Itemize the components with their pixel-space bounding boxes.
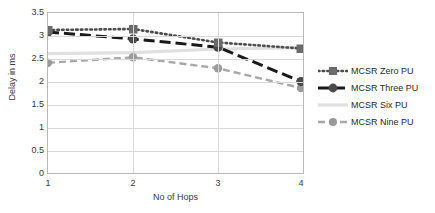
legend-item-mcsr-six-pu[interactable]: MCSR Six PU	[318, 96, 433, 113]
gridline-2.5	[48, 59, 303, 60]
plot-area	[47, 12, 304, 174]
legend-label-mcsr-zero-pu: MCSR Zero PU	[351, 66, 414, 76]
x-tick-4: 4	[286, 178, 316, 188]
vgridline-2	[133, 13, 134, 173]
vgridline-3	[218, 13, 219, 173]
legend-label-mcsr-three-pu: MCSR Three PU	[351, 83, 418, 93]
chart-legend: MCSR Zero PU MCSR Three PU MCSR Six PU	[318, 62, 433, 130]
legend-swatch-mcsr-six-pu	[318, 99, 348, 111]
x-tick-3: 3	[203, 178, 233, 188]
series-layer	[48, 13, 303, 173]
series-line-mcsr-three-pu	[48, 32, 301, 82]
x-axis-title: No of Hops	[47, 192, 304, 202]
x-tick-2: 2	[118, 178, 148, 188]
y-tick-1: 0.5	[2, 146, 44, 155]
y-tick-7: 3.5	[2, 8, 44, 17]
legend-label-mcsr-six-pu: MCSR Six PU	[351, 100, 408, 110]
series-point-mcsr-zero-pu	[297, 45, 304, 54]
series-line-mcsr-nine-pu	[48, 57, 301, 88]
gridline-1.5	[48, 105, 303, 106]
x-tick-1: 1	[33, 178, 63, 188]
series-point-mcsr-zero-pu	[48, 26, 53, 35]
legend-label-mcsr-nine-pu: MCSR Nine PU	[351, 117, 414, 127]
legend-item-mcsr-three-pu[interactable]: MCSR Three PU	[318, 79, 433, 96]
legend-swatch-mcsr-zero-pu	[318, 65, 348, 77]
gridline-2	[48, 82, 303, 83]
series-line-mcsr-zero-pu	[48, 29, 301, 49]
gridline-3	[48, 36, 303, 37]
gridline-0.5	[48, 151, 303, 152]
y-tick-0: 0	[2, 169, 44, 178]
y-axis-title: Delay in ms	[7, 37, 17, 117]
legend-swatch-mcsr-three-pu	[318, 82, 348, 94]
legend-item-mcsr-zero-pu[interactable]: MCSR Zero PU	[318, 62, 433, 79]
y-tick-2: 1	[2, 123, 44, 132]
legend-swatch-mcsr-nine-pu	[318, 116, 348, 128]
gridline-1	[48, 128, 303, 129]
series-line-mcsr-six-pu	[48, 48, 301, 54]
chart-container: 0 0.5 1 1.5 2 2.5 3 3.5 Delay in ms	[0, 0, 435, 213]
legend-item-mcsr-nine-pu[interactable]: MCSR Nine PU	[318, 113, 433, 130]
